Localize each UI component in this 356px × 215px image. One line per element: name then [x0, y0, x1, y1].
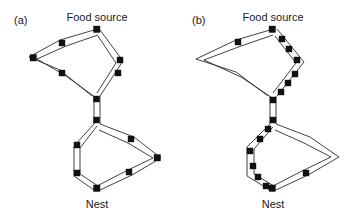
- ant-node: [269, 26, 276, 33]
- ant-node: [30, 55, 37, 62]
- panel-a-trail-lines: [29, 30, 161, 190]
- trail-b-lower-right-outer: [276, 124, 339, 190]
- ant-node: [59, 40, 65, 46]
- ant-node: [94, 185, 101, 192]
- ant-node: [286, 46, 292, 52]
- panel-a-nest-label: Nest: [86, 198, 109, 210]
- panel-b-ant-nodes: [235, 26, 309, 192]
- ant-node: [263, 183, 269, 189]
- figure-container: (a) Food source Nest: [0, 0, 356, 215]
- ant-node: [94, 26, 101, 33]
- ant-node: [292, 71, 298, 77]
- ant-node: [270, 97, 276, 103]
- ant-node: [257, 136, 263, 142]
- panel-b-nest-label: Nest: [262, 198, 285, 210]
- ant-node: [278, 89, 284, 95]
- ant-node: [235, 39, 241, 45]
- trail-a-upper-left-inner: [37, 35, 98, 97]
- panel-a: (a) Food source Nest: [14, 11, 161, 210]
- ant-node: [279, 36, 285, 42]
- trail-a-upper-right-inner: [97, 36, 116, 93]
- trail-b-upper-right-inner: [273, 36, 296, 93]
- panel-a-ant-nodes: [30, 26, 161, 192]
- panel-b: (b) Food source Nest: [192, 11, 339, 210]
- ant-node: [255, 174, 261, 180]
- panel-b-trail-lines: [196, 29, 339, 190]
- panel-a-food-source-label: Food source: [66, 11, 127, 23]
- ant-node: [247, 148, 253, 154]
- ant-node: [59, 70, 65, 76]
- ant-node: [117, 57, 123, 63]
- panel-b-tag: (b): [192, 14, 205, 26]
- ant-node: [285, 80, 291, 86]
- ant-node: [250, 163, 256, 169]
- ant-node: [269, 185, 276, 192]
- trail-diagram-svg: (a) Food source Nest: [0, 0, 356, 215]
- ant-node: [115, 70, 121, 76]
- trail-a-lower-right-inner: [97, 130, 153, 186]
- ant-node: [265, 126, 271, 132]
- ant-node: [270, 117, 276, 123]
- ant-node: [154, 155, 161, 162]
- ant-node: [126, 169, 132, 175]
- panel-a-tag: (a): [14, 14, 27, 26]
- ant-node: [94, 96, 100, 102]
- ant-node: [74, 170, 80, 176]
- ant-node: [74, 142, 80, 148]
- ant-node: [294, 57, 300, 63]
- trail-a-lower-left-inner: [80, 126, 98, 186]
- ant-node: [303, 170, 309, 176]
- ant-node: [128, 136, 134, 142]
- ant-node: [94, 117, 100, 123]
- panel-b-food-source-label: Food source: [242, 11, 303, 23]
